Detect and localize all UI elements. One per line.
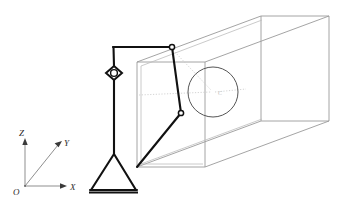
linkage-vertical-column-upper[interactable] xyxy=(114,47,115,66)
figure-root: C xyxy=(0,0,343,216)
pin-joint-mid-icon[interactable] xyxy=(178,110,183,115)
diamond-joint-inner-circle xyxy=(111,70,118,77)
axis-label-origin: O xyxy=(13,187,20,197)
figure-background xyxy=(0,0,343,216)
origin-point xyxy=(24,185,26,187)
mechanism-diagram-canvas: C xyxy=(0,0,343,216)
axis-label-x: X xyxy=(69,182,76,192)
pin-joint-top-icon[interactable] xyxy=(169,44,174,49)
